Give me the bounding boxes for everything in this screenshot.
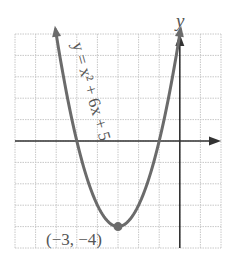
- x-axis-arrow-icon: [209, 137, 221, 146]
- curve-arrow-icon: [52, 26, 61, 38]
- curve-arrows: [52, 26, 184, 38]
- parabola-chart: y y = x² + 6x + 5 (−3, −4): [0, 0, 225, 258]
- axes: [15, 34, 221, 248]
- vertex-point: [114, 222, 123, 231]
- vertex-label: (−3, −4): [46, 230, 102, 249]
- y-axis-label: y: [174, 10, 185, 31]
